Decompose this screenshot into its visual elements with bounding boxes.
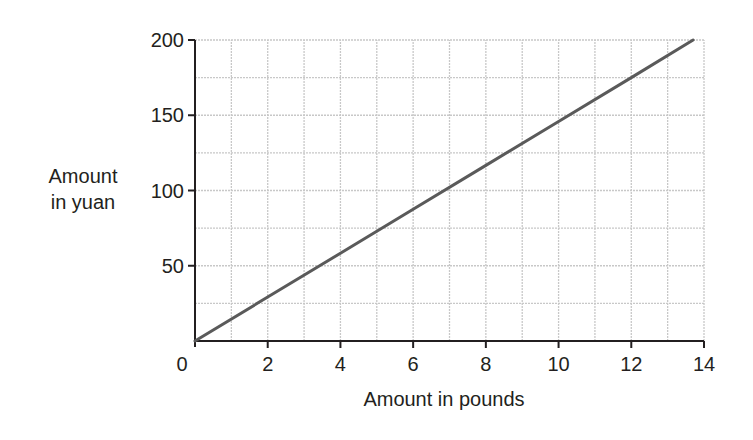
x-tick-label: 14 [693,353,715,375]
x-tick-label: 0 [176,353,187,375]
x-tick-label: 6 [408,353,419,375]
x-axis-title: Amount in pounds [363,388,524,410]
y-axis-title-line-1: Amount [49,165,118,187]
axis-ticks: 0246810121450100150200 [151,29,716,375]
x-tick-label: 4 [335,353,346,375]
x-tick-label: 12 [620,353,642,375]
x-tick-label: 8 [480,353,491,375]
y-tick-label: 200 [151,29,184,51]
y-tick-label: 50 [162,255,184,277]
y-tick-label: 150 [151,104,184,126]
x-tick-label: 2 [262,353,273,375]
y-tick-label: 100 [151,180,184,202]
axis-labels: Amount in yuan Amount in pounds [49,165,525,410]
conversion-line-chart: 0246810121450100150200 Amount in yuan Am… [0,0,753,440]
y-axis-title-line-2: in yuan [51,191,116,213]
x-tick-label: 10 [547,353,569,375]
